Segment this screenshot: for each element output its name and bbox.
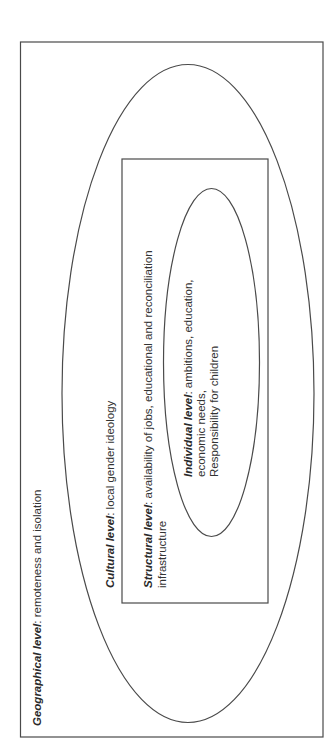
- individual-level-label: Individual level: ambitions, education,: [182, 279, 194, 477]
- geographical-level-description: remoteness and isolation: [31, 489, 43, 617]
- structural-level-label: Structural level: availability of jobs, …: [142, 250, 154, 588]
- individual-level-description-line3: Responsibility for children: [208, 346, 220, 477]
- individual-level-description-line2: economic needs,: [195, 390, 207, 477]
- nested-levels-diagram: Geographical level: remoteness and isola…: [0, 0, 335, 756]
- cultural-level-title: Cultural level: [104, 515, 116, 588]
- cultural-level-description: local gender ideology: [104, 400, 116, 509]
- geographical-level-frame: [21, 42, 324, 737]
- individual-level-title: Individual level: [182, 394, 194, 477]
- structural-level-description: availability of jobs, educational and re…: [142, 250, 154, 498]
- geographical-level-label: Geographical level: remoteness and isola…: [31, 489, 43, 726]
- structural-level-title: Structural level: [142, 504, 154, 588]
- structural-level-description-line2: infrastructure: [156, 521, 168, 588]
- individual-level-description: ambitions, education,: [182, 279, 194, 388]
- geographical-level-title: Geographical level: [31, 623, 43, 726]
- cultural-level-label: Cultural level: local gender ideology: [104, 400, 116, 588]
